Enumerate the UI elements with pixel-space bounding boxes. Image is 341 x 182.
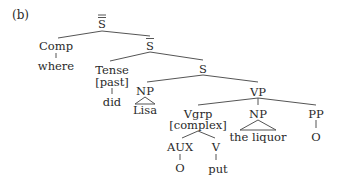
- edge-root-comp: [58, 31, 102, 38]
- tree-nodes: S Comp where S Tense [past] did S NP Lis…: [38, 15, 324, 176]
- node-sbar: S: [146, 39, 154, 54]
- syntax-tree: (b) S: [0, 0, 341, 182]
- edge-vgrp-aux: [182, 131, 198, 138]
- node-v: V: [211, 140, 221, 154]
- leaf-did: did: [103, 95, 122, 109]
- edge-vp-vgrp: [198, 98, 258, 105]
- node-root: S: [98, 15, 106, 31]
- leaf-the-liquor: the liquor: [229, 130, 287, 144]
- node-vgrp-feature: [complex]: [169, 118, 227, 132]
- edge-s-np: [147, 75, 203, 82]
- node-vp: VP: [249, 85, 266, 99]
- leaf-where: where: [38, 59, 75, 73]
- node-aux: AUX: [166, 140, 194, 154]
- edge-sbar-tense: [110, 52, 150, 61]
- leaf-put: put: [208, 162, 228, 176]
- edge-s-vp: [203, 75, 258, 82]
- figure-label: (b): [12, 8, 29, 22]
- edge-sbar-s: [150, 52, 203, 60]
- edge-vp-pp: [258, 98, 316, 105]
- edge-np-liquor-triangle: [240, 120, 276, 130]
- node-pp: PP: [308, 107, 324, 121]
- node-s: S: [199, 62, 207, 76]
- node-sbar-label: S: [146, 39, 154, 53]
- node-np-object: NP: [249, 107, 267, 121]
- node-comp: Comp: [39, 39, 73, 53]
- node-root-label: S: [98, 17, 106, 31]
- edge-vgrp-v: [198, 131, 215, 138]
- leaf-pp-empty: O: [311, 130, 320, 144]
- edge-root-sbar: [102, 31, 150, 36]
- leaf-lisa: Lisa: [133, 103, 157, 117]
- leaf-aux-empty: O: [175, 161, 184, 175]
- node-np-subject: NP: [136, 84, 154, 98]
- node-tense-feature: [past]: [95, 75, 129, 89]
